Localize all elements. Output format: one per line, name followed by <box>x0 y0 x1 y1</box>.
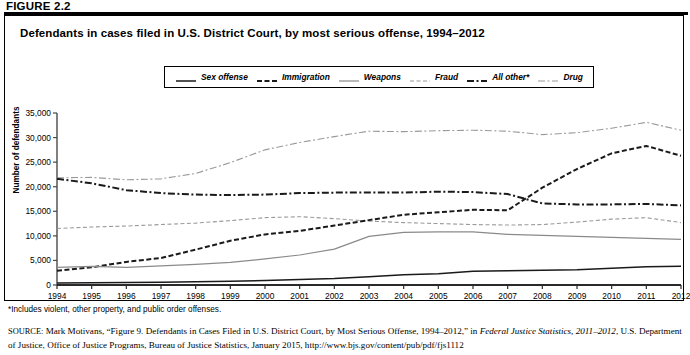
y-tick-label: 30,000 <box>3 133 51 143</box>
y-tick-label: 15,000 <box>3 206 51 216</box>
y-tick-label: 25,000 <box>3 157 51 167</box>
series-line-fraud <box>57 217 681 229</box>
y-tick-label: 10,000 <box>3 231 51 241</box>
series-line-drug <box>57 122 681 179</box>
series-line-all-other <box>57 179 681 206</box>
chart-footnote: *Includes violent, other property, and p… <box>8 305 221 314</box>
x-tick-label: 2012 <box>661 291 690 301</box>
y-tick-label: 20,000 <box>3 182 51 192</box>
y-axis-label: Number of defendants <box>12 107 21 194</box>
plot-area: Number of defendants 05,00010,00015,0002… <box>0 0 690 310</box>
series-line-sex-offense <box>57 266 681 283</box>
y-tick-label: 35,000 <box>3 108 51 118</box>
source-note: SOURCE: Mark Motivans, “Figure 9. Defend… <box>8 325 684 351</box>
y-tick-label: 5,000 <box>3 255 51 265</box>
source-italic: Federal Justice Statistics, 2011–2012 <box>480 326 616 336</box>
line-chart-svg <box>0 0 690 310</box>
series-line-weapons <box>57 232 681 267</box>
y-tick-label: 0 <box>3 280 51 290</box>
source-part1: Mark Motivans, “Figure 9. Defendants in … <box>43 326 479 336</box>
source-prefix: SOURCE: <box>8 327 43 336</box>
series-line-immigration <box>57 146 681 271</box>
